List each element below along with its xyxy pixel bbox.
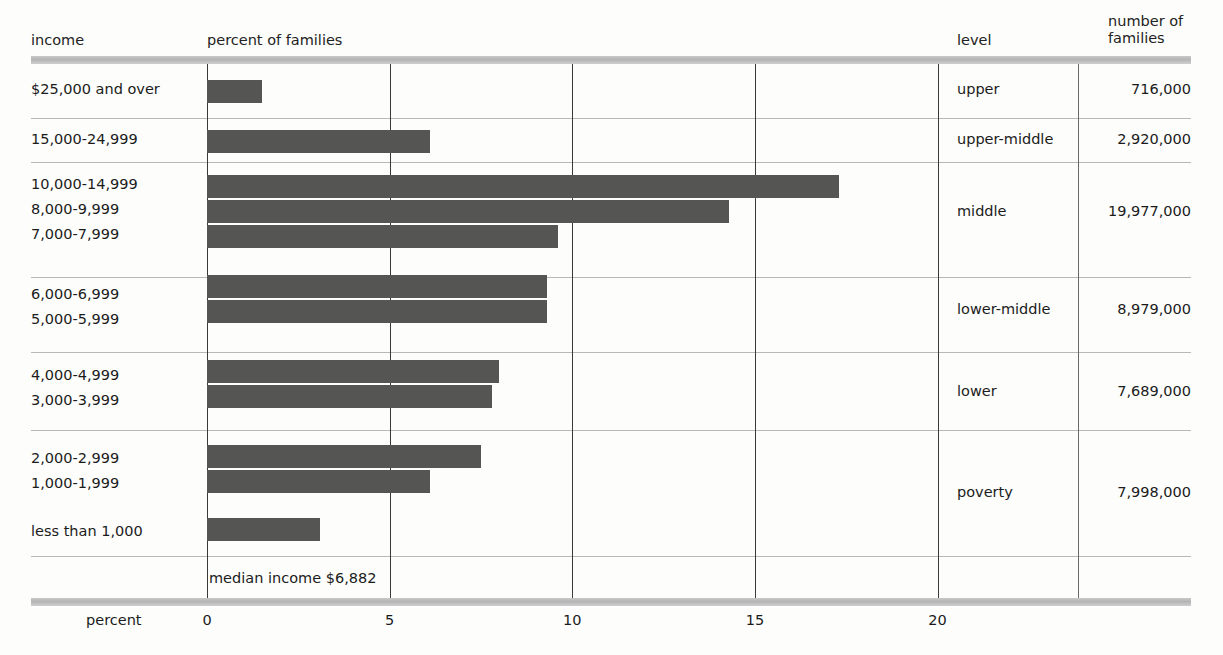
column-header-percent-of-families: percent of families xyxy=(207,32,342,49)
top-rule xyxy=(31,56,1191,64)
group-separator-upper xyxy=(31,118,1191,119)
income-label: 15,000-24,999 xyxy=(31,131,138,147)
column-header-number-of-families-line1: number of xyxy=(1108,13,1183,30)
column-header-number-of-families: number of families xyxy=(1108,13,1183,47)
column-header-level: level xyxy=(957,32,991,49)
axis-tick-mark xyxy=(207,584,208,598)
families-cell-upper: 716,000 xyxy=(1131,81,1191,97)
income-label: 3,000-3,999 xyxy=(31,392,119,408)
families-cell-lower-middle: 8,979,000 xyxy=(1117,301,1191,317)
column-header-income: income xyxy=(31,32,84,49)
families-cell-middle: 19,977,000 xyxy=(1108,203,1191,219)
level-cell-middle: middle xyxy=(957,203,1007,219)
income-label: 7,000-7,999 xyxy=(31,226,119,242)
level-cell-poverty: poverty xyxy=(957,484,1013,500)
bar xyxy=(207,518,320,541)
gridline-10 xyxy=(572,64,573,598)
level-cell-lower-middle: lower-middle xyxy=(957,301,1050,317)
group-separator-lower-middle xyxy=(31,352,1191,353)
axis-tick-mark xyxy=(390,584,391,598)
income-distribution-chart: income percent of families level number … xyxy=(0,0,1223,655)
families-cell-lower: 7,689,000 xyxy=(1117,383,1191,399)
gridline-15 xyxy=(755,64,756,598)
bar xyxy=(207,385,492,408)
axis-tick-label: 5 xyxy=(385,612,394,628)
income-label: less than 1,000 xyxy=(31,523,143,539)
bottom-rule xyxy=(31,598,1191,606)
group-separator-poverty xyxy=(31,556,1191,557)
axis-tick-label: 20 xyxy=(928,612,946,628)
income-label: 6,000-6,999 xyxy=(31,286,119,302)
bar xyxy=(207,470,430,493)
bar xyxy=(207,80,262,103)
families-cell-poverty: 7,998,000 xyxy=(1117,484,1191,500)
income-label: 4,000-4,999 xyxy=(31,367,119,383)
bar xyxy=(207,275,547,298)
axis-tick-mark xyxy=(755,584,756,598)
group-separator-upper-middle xyxy=(31,162,1191,163)
level-cell-upper: upper xyxy=(957,81,999,97)
axis-tick-label: 15 xyxy=(746,612,764,628)
bar xyxy=(207,225,558,248)
group-separator-middle xyxy=(31,277,1191,278)
level-cell-lower: lower xyxy=(957,383,997,399)
gridline-20 xyxy=(938,64,939,598)
axis-tick-label: 10 xyxy=(563,612,581,628)
income-label: 10,000-14,999 xyxy=(31,176,138,192)
families-cell-upper-middle: 2,920,000 xyxy=(1117,131,1191,147)
axis-tick-mark xyxy=(572,584,573,598)
bar xyxy=(207,130,430,153)
income-label: 8,000-9,999 xyxy=(31,201,119,217)
income-label: 5,000-5,999 xyxy=(31,311,119,327)
bar xyxy=(207,360,499,383)
column-rule-families xyxy=(1078,64,1079,598)
bar xyxy=(207,175,839,198)
group-separator-lower xyxy=(31,430,1191,431)
bar xyxy=(207,445,481,468)
level-cell-upper-middle: upper-middle xyxy=(957,131,1053,147)
income-label: $25,000 and over xyxy=(31,81,160,97)
axis-tick-label: 0 xyxy=(202,612,211,628)
income-label: 1,000-1,999 xyxy=(31,475,119,491)
column-header-number-of-families-line2: families xyxy=(1108,30,1183,47)
bar xyxy=(207,300,547,323)
axis-title-percent: percent xyxy=(86,612,142,628)
income-label: 2,000-2,999 xyxy=(31,450,119,466)
axis-tick-mark xyxy=(938,584,939,598)
median-income-annotation: median income $6,882 xyxy=(209,570,376,586)
bar xyxy=(207,200,729,223)
